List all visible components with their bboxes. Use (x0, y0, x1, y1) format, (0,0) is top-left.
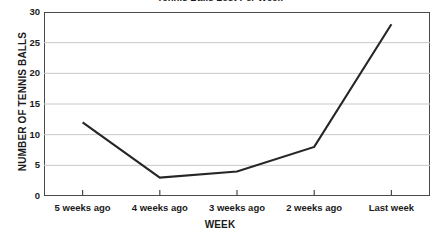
x-axis-tick-marks (83, 190, 392, 196)
y-axis-tick-label: 30 (6, 7, 40, 17)
y-axis-tick-label: 20 (6, 68, 40, 78)
x-axis-tick-labels: 5 weeks ago4 weeks ago3 weeks ago2 weeks… (0, 202, 440, 218)
x-axis-tick-label: Last week (369, 202, 414, 213)
chart-title: Tennis Balls Lost Per Week (0, 0, 440, 3)
y-axis-tick-label: 15 (6, 99, 40, 109)
x-axis-tick-label: 3 weeks ago (209, 202, 265, 213)
data-series-line (83, 24, 392, 177)
x-axis-tick-label: 4 weeks ago (132, 202, 188, 213)
line-chart: Tennis Balls Lost Per Week NUMBER OF TEN… (0, 0, 440, 238)
y-axis-tick-label: 0 (6, 191, 40, 201)
x-axis-tick-label: 5 weeks ago (55, 202, 111, 213)
x-axis-tick-label: 2 weeks ago (286, 202, 342, 213)
y-axis-tick-label: 10 (6, 130, 40, 140)
y-axis-tick-label: 5 (6, 160, 40, 170)
plot-area (44, 12, 430, 196)
gridlines (44, 43, 430, 166)
x-axis-title: WEEK (0, 219, 440, 230)
y-axis-tick-label: 25 (6, 38, 40, 48)
